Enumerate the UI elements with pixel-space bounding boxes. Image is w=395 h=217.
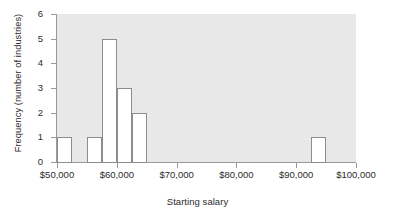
y-tick-label: 5 (3, 34, 43, 44)
histogram-figure: Frequency (number of industries) 0123456… (0, 0, 395, 217)
histogram-bar (117, 88, 132, 163)
y-tick-mark (51, 88, 57, 89)
y-tick-label: 1 (3, 132, 43, 142)
x-tick-label: $100,000 (316, 170, 395, 180)
y-tick-mark (51, 113, 57, 114)
y-tick-label: 0 (3, 157, 43, 167)
x-tick-mark (57, 163, 58, 168)
y-tick-label: 6 (3, 9, 43, 19)
y-tick-mark (51, 63, 57, 64)
y-tick-label: 2 (3, 108, 43, 118)
histogram-bar (132, 113, 147, 163)
y-tick-mark (51, 39, 57, 40)
x-tick-mark (117, 163, 118, 168)
x-tick-mark (296, 163, 297, 168)
x-tick-mark (356, 163, 357, 168)
histogram-bar (87, 137, 102, 163)
y-tick-label: 4 (3, 58, 43, 68)
x-tick-mark (177, 163, 178, 168)
y-tick-mark (51, 14, 57, 15)
x-tick-mark (236, 163, 237, 168)
histogram-bar (311, 137, 326, 163)
histogram-bar (57, 137, 72, 163)
y-tick-label: 3 (3, 83, 43, 93)
histogram-bar (102, 39, 117, 163)
x-axis-label: Starting salary (0, 196, 395, 207)
